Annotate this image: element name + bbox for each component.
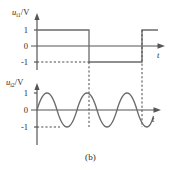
top-x-axis [31,43,165,49]
waveform-svg: 1 0 -1 ui1/V t [0,0,181,173]
bottom-x-axis-label: t [152,114,155,124]
bottom-ytick-minus-1: -1 [21,122,28,132]
waveform-figure: 1 0 -1 ui1/V t [0,0,181,173]
top-ytick-0: 0 [24,41,28,51]
top-ytick-minus-1: -1 [21,57,28,67]
bottom-ytick-1: 1 [24,88,28,98]
top-y-axis-label: ui1/V [12,7,30,18]
bottom-y-axis-label: ui2/V [6,77,24,88]
top-ytick-1: 1 [24,25,28,35]
panel-connectors [89,30,142,127]
bottom-ytick-0: 0 [24,105,28,115]
top-x-axis-label: t [157,50,160,60]
top-y-axis-label-unit: /V [21,7,30,17]
bottom-y-axis [34,83,39,145]
bottom-y-axis-label-unit: /V [15,77,24,87]
panel-bottom: 1 0 -1 ui2/V t [6,77,161,145]
figure-caption: (b) [0,152,181,162]
